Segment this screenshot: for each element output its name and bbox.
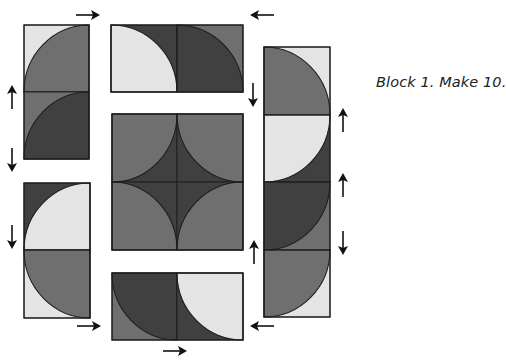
arrow-down-left-1-icon: [7, 148, 17, 172]
center-unit-4: [177, 182, 243, 250]
block-caption: Block 1. Make 10.: [376, 74, 506, 90]
bottom-middle-unit-1: [112, 273, 177, 340]
arrow-down-left-2-icon: [7, 225, 17, 249]
arrow-left-bottom-right-icon: [250, 321, 274, 331]
arrow-right-bottom-left-icon: [77, 321, 101, 331]
left-bottom-unit-1: [24, 183, 90, 250]
right-unit-2: [264, 115, 330, 182]
right-unit-3: [264, 182, 330, 250]
right-unit-4: [264, 250, 330, 317]
top-middle-unit-2: [177, 25, 243, 92]
arrow-down-mid-right-icon: [248, 83, 258, 107]
arrow-up-right-1-icon: [338, 108, 348, 132]
arrow-left-top-right-icon: [250, 10, 274, 20]
center-unit-3: [112, 182, 177, 250]
arrow-up-left-1-icon: [7, 85, 17, 109]
bottom-middle-unit-2: [177, 273, 243, 340]
top-middle-unit-1: [111, 25, 177, 92]
arrow-up-right-2-icon: [338, 173, 348, 197]
center-unit-2: [177, 114, 243, 182]
left-bottom-unit-2: [24, 250, 90, 318]
arrow-up-mid-right-icon: [249, 240, 259, 264]
arrow-right-bottom-center-icon: [163, 346, 187, 356]
arrow-right-top-left-icon: [76, 10, 100, 20]
left-top-unit-1: [24, 25, 89, 92]
center-unit-1: [112, 114, 177, 182]
left-top-unit-2: [24, 92, 89, 159]
right-unit-1: [264, 47, 330, 115]
arrow-down-right-3-icon: [338, 231, 348, 255]
